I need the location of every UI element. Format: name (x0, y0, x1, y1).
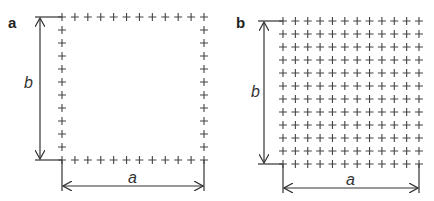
plus-marker (366, 160, 374, 168)
plus-marker (390, 147, 398, 155)
plus-marker (378, 56, 386, 64)
plus-marker (403, 160, 411, 168)
plus-marker (58, 78, 66, 86)
plus-marker (316, 17, 324, 25)
plus-marker (353, 147, 361, 155)
plus-marker (353, 56, 361, 64)
plus-marker (279, 160, 287, 168)
plus-marker (279, 147, 287, 155)
plus-marker (291, 121, 299, 129)
plus-marker (279, 30, 287, 38)
plus-marker (291, 147, 299, 155)
plus-marker (291, 30, 299, 38)
perimeter-plus-grid (58, 13, 208, 164)
plus-marker (378, 30, 386, 38)
plus-marker (304, 17, 312, 25)
plus-marker (58, 39, 66, 47)
plus-marker (341, 95, 349, 103)
plus-marker (341, 69, 349, 77)
plus-marker (279, 134, 287, 142)
plus-marker (403, 121, 411, 129)
plus-marker (328, 95, 336, 103)
plus-marker (174, 13, 182, 21)
plus-marker (316, 95, 324, 103)
plus-marker (316, 134, 324, 142)
plus-marker (353, 17, 361, 25)
plus-marker (341, 134, 349, 142)
plus-marker (378, 17, 386, 25)
plus-marker (316, 108, 324, 116)
plus-marker (279, 69, 287, 77)
plus-marker (328, 134, 336, 142)
plus-marker (415, 147, 423, 155)
plus-marker (84, 13, 92, 21)
plus-marker (58, 117, 66, 125)
plus-marker (279, 95, 287, 103)
plus-marker (415, 69, 423, 77)
plus-marker (415, 108, 423, 116)
plus-marker (328, 43, 336, 51)
plus-marker (403, 82, 411, 90)
plus-marker (304, 69, 312, 77)
plus-marker (403, 147, 411, 155)
plus-marker (366, 134, 374, 142)
panel-a-label: a (8, 14, 17, 31)
dimension-label-a: a (128, 169, 137, 186)
plus-marker (279, 43, 287, 51)
plus-marker (304, 108, 312, 116)
plus-marker (390, 17, 398, 25)
plus-marker (200, 52, 208, 60)
dimension-label-a: a (346, 171, 355, 188)
plus-marker (415, 134, 423, 142)
plus-marker (174, 156, 182, 164)
plus-marker (200, 26, 208, 34)
dimension-label-b: b (24, 74, 33, 91)
plus-marker (200, 156, 208, 164)
plus-marker (415, 56, 423, 64)
plus-marker (403, 134, 411, 142)
plus-marker (291, 95, 299, 103)
plus-marker (187, 156, 195, 164)
plus-marker (341, 121, 349, 129)
plus-marker (135, 156, 143, 164)
plus-marker (353, 121, 361, 129)
plus-marker (316, 69, 324, 77)
plus-marker (291, 17, 299, 25)
plus-marker (328, 30, 336, 38)
plus-marker (341, 56, 349, 64)
plus-marker (378, 108, 386, 116)
plus-marker (403, 56, 411, 64)
plus-marker (71, 156, 79, 164)
plus-marker (353, 160, 361, 168)
plus-marker (366, 69, 374, 77)
plus-marker (304, 95, 312, 103)
plus-marker (316, 160, 324, 168)
plus-marker (135, 13, 143, 21)
plus-marker (58, 52, 66, 60)
plus-marker (291, 134, 299, 142)
plus-marker (328, 69, 336, 77)
plus-marker (316, 82, 324, 90)
plus-marker (378, 134, 386, 142)
plus-marker (378, 82, 386, 90)
plus-marker (366, 43, 374, 51)
plus-marker (341, 160, 349, 168)
plus-marker (304, 147, 312, 155)
plus-marker (341, 43, 349, 51)
plus-marker (279, 82, 287, 90)
plus-marker (304, 43, 312, 51)
plus-marker (304, 134, 312, 142)
plus-marker (97, 156, 105, 164)
plus-marker (304, 56, 312, 64)
plus-marker (366, 82, 374, 90)
plus-marker (415, 17, 423, 25)
plus-marker (97, 13, 105, 21)
plus-marker (304, 160, 312, 168)
plus-marker (390, 43, 398, 51)
plus-marker (353, 69, 361, 77)
plus-marker (341, 147, 349, 155)
plus-marker (110, 13, 118, 21)
plus-marker (316, 121, 324, 129)
plus-marker (390, 121, 398, 129)
plus-marker (415, 95, 423, 103)
